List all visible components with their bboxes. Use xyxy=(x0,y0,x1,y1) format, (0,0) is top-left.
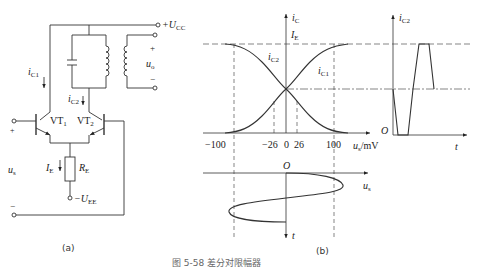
tick-minus-26: −26 xyxy=(262,140,278,150)
ucc-terminal xyxy=(156,23,160,27)
figure-caption: 图 5-58 差分对限幅器 xyxy=(172,256,261,269)
ie-label: IE xyxy=(46,163,54,175)
input-label: us xyxy=(8,165,16,177)
resistor-re xyxy=(65,157,75,181)
ie-level-label: IE xyxy=(291,30,299,42)
vt2-label: VT2 xyxy=(77,116,94,128)
ic-axis-label: iC xyxy=(292,13,299,25)
uee-label: −UEE xyxy=(74,194,97,206)
input-plus-label: + xyxy=(10,127,15,135)
ic2-time-chart xyxy=(393,15,467,135)
ic1-label: iC1 xyxy=(28,67,39,79)
ic1-curve xyxy=(225,44,348,133)
vt1-label: VT1 xyxy=(50,116,67,128)
origin-bottom-label: O xyxy=(283,161,290,171)
ic2-axis-label: iC2 xyxy=(399,13,410,25)
panel-b-label: (b) xyxy=(316,247,329,256)
inductor-secondary xyxy=(124,46,127,76)
tick-100: 100 xyxy=(326,140,341,150)
ic2-curve-label: iC2 xyxy=(268,52,279,64)
re-label: RE xyxy=(79,163,89,175)
us-axis-label: us/mV xyxy=(353,141,379,153)
us-time-chart xyxy=(203,173,368,238)
inductor-primary xyxy=(106,46,109,76)
tick-minus-100: −100 xyxy=(205,140,226,150)
t-right-label: t xyxy=(455,142,458,152)
us-bottom-label: us xyxy=(363,181,371,193)
panel-a-label: (a) xyxy=(62,244,75,253)
t-bottom-label: t xyxy=(292,231,295,241)
input-terminal-plus xyxy=(12,119,16,123)
output-label: uo xyxy=(146,59,155,71)
input-terminal-minus xyxy=(12,213,16,217)
output-minus-label: − xyxy=(150,75,155,84)
tick-26: 26 xyxy=(294,140,304,150)
origin-right-label: O xyxy=(381,126,388,136)
output-terminal-top xyxy=(153,33,157,37)
tick-0: 0 xyxy=(284,140,289,150)
input-minus-label: − xyxy=(10,202,15,211)
output-terminal-bottom xyxy=(153,86,157,90)
ic2-waveform xyxy=(393,44,434,135)
ic2-label: iC2 xyxy=(68,94,79,106)
uee-terminal xyxy=(68,196,72,200)
ic1-curve-label: iC1 xyxy=(318,66,329,78)
ucc-label: +UCC xyxy=(162,20,185,32)
output-plus-label: + xyxy=(150,44,155,53)
